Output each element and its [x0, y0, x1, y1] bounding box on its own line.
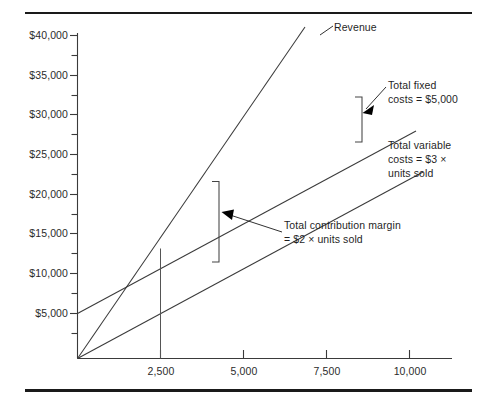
y-tick-label-30000: $30,000 [6, 108, 68, 120]
fixed-costs-bracket [355, 97, 362, 142]
total-variable-cost-line [78, 172, 424, 359]
fixed-costs-leader [363, 87, 387, 115]
y-tick-label-5000: $5,000 [6, 307, 68, 319]
total-variable-costs-label: Total variable costs = $3 × units sold [388, 138, 451, 180]
y-tick-label-15000: $15,000 [6, 227, 68, 239]
x-tick-label-5000: 5,000 [209, 365, 279, 377]
cvp-breakeven-chart-figure: $40,000 $35,000 $30,000 $25,000 $20,000 … [0, 0, 496, 407]
x-axis-ticks [161, 350, 410, 359]
contribution-margin-bracket [212, 182, 219, 263]
y-tick-label-10000: $10,000 [6, 267, 68, 279]
y-tick-label-20000: $20,000 [6, 188, 68, 200]
revenue-line [78, 27, 306, 359]
y-tick-label-35000: $35,000 [6, 69, 68, 81]
contribution-margin-leader [222, 210, 283, 233]
x-tick-label-2500: 2,500 [126, 365, 196, 377]
revenue-label: Revenue [334, 20, 377, 34]
x-tick-label-10000: 10,000 [375, 365, 445, 377]
total-fixed-costs-label: Total fixed costs = $5,000 [388, 78, 458, 106]
revenue-leader [320, 26, 333, 35]
x-tick-label-7500: 7,500 [292, 365, 362, 377]
y-tick-label-25000: $25,000 [6, 148, 68, 160]
plot-area [0, 0, 496, 407]
total-contribution-margin-label: Total contribution margin = $2 × units s… [284, 218, 401, 246]
y-tick-label-40000: $40,000 [6, 29, 68, 41]
